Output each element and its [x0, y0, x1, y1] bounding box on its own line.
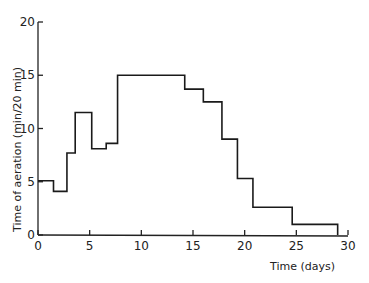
- x-axis-title: Time (days): [269, 260, 335, 273]
- y-axis-title: Time of aeration (min/20 min): [11, 67, 24, 233]
- x-tick-label: 0: [34, 239, 42, 253]
- y-tick-label: 20: [20, 15, 35, 29]
- aeration-step-line: [38, 75, 338, 235]
- x-tick-label: 20: [237, 239, 252, 253]
- x-tick-label: 25: [289, 239, 304, 253]
- x-tick-label: 10: [134, 239, 149, 253]
- y-tick-label: 5: [27, 175, 35, 189]
- step-chart: 05101520 051015202530 Time of aeration (…: [0, 0, 369, 283]
- x-tick-label: 15: [185, 239, 200, 253]
- x-tick-label: 5: [86, 239, 94, 253]
- x-tick-label: 30: [340, 239, 355, 253]
- x-axis: 051015202530: [34, 230, 355, 253]
